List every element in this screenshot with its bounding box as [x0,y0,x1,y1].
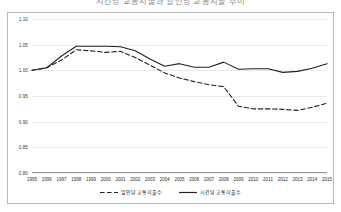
x-tick-label: 2012 [278,177,288,183]
y-tick-label: 1.05 [19,42,28,47]
series-layer [32,19,327,173]
legend-swatch-solid-icon [179,190,197,195]
x-tick-label: 1996 [42,177,52,183]
x-tick-label: 1997 [56,177,66,183]
y-tick-label: 0.95 [19,94,28,99]
x-tick-label: 2004 [160,177,170,183]
x-tick-label: 2014 [307,177,317,183]
legend-item[interactable]: 시간당 교통지출수 [179,189,241,195]
y-tick-label: 1.00 [19,68,28,73]
x-tick-label: 2005 [174,177,184,183]
x-axis-labels: 1995199619971998199920002001200220032004… [32,177,327,187]
x-tick-label: 1998 [71,177,81,183]
series-line-1 [32,50,327,111]
legend-label: 시간당 교통지출수 [200,189,241,195]
x-tick-label: 2007 [204,177,214,183]
legend-swatch-dashed-icon [100,190,118,195]
x-tick-label: 2009 [233,177,243,183]
x-tick-label: 1999 [86,177,96,183]
x-tick-label: 2011 [263,177,273,183]
chart-legend: 일인당 교통지출수시간당 교통지출수 [8,189,333,195]
y-tick-label: 0.85 [19,145,28,150]
y-tick-label: 0.90 [19,119,28,124]
plot-area: 1.101.051.000.950.900.850.80 [32,19,327,173]
chart-frame: 1.101.051.000.950.900.850.80 19951996199… [7,12,334,204]
plot-wrapper: 1.101.051.000.950.900.850.80 19951996199… [8,13,333,203]
y-tick-label: 1.10 [19,17,28,22]
gridline [32,173,327,174]
x-tick-label: 2006 [189,177,199,183]
chart-title: 시간당 교통지출과 일인당 교통지출 추이 [0,0,341,8]
x-tick-label: 1995 [27,177,37,183]
chart-title-strip: 시간당 교통지출과 일인당 교통지출 추이 [0,0,341,12]
x-tick-label: 2015 [322,177,332,183]
chart-page: 시간당 교통지출과 일인당 교통지출 추이 1.101.051.000.950.… [0,0,341,212]
x-tick-label: 2002 [130,177,140,183]
x-tick-label: 2003 [145,177,155,183]
x-tick-label: 2001 [115,177,125,183]
x-tick-label: 2000 [101,177,111,183]
legend-item[interactable]: 일인당 교통지출수 [100,189,162,195]
y-tick-label: 0.80 [19,171,28,176]
x-tick-label: 2010 [248,177,258,183]
x-tick-label: 2013 [292,177,302,183]
x-tick-label: 2008 [219,177,229,183]
legend-label: 일인당 교통지출수 [121,189,162,195]
